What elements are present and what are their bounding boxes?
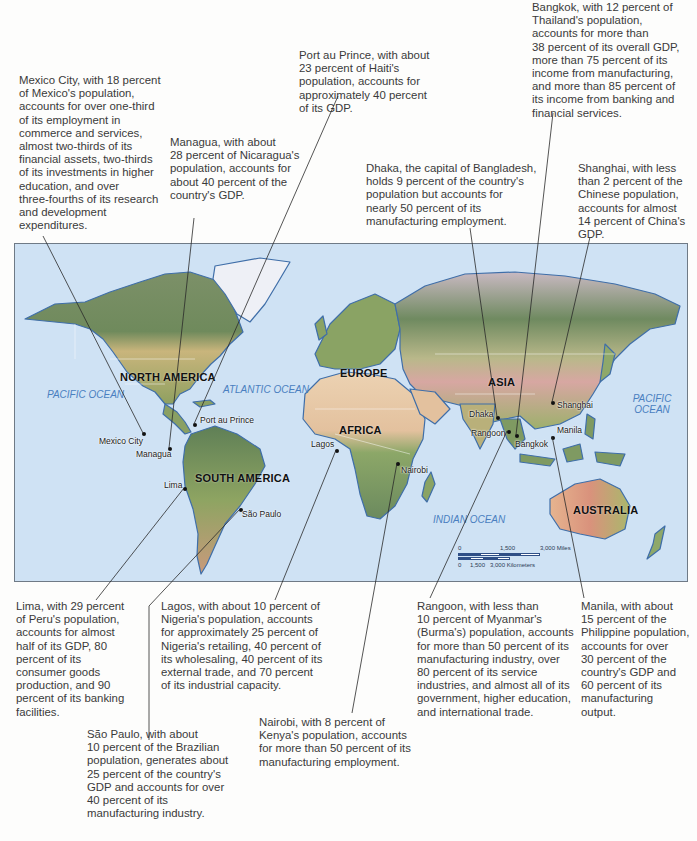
region-label-africa: AFRICA [339, 424, 382, 436]
scale-miles-mid: 1,500 [500, 545, 515, 551]
city-marker-shanghai [551, 401, 555, 405]
city-label-managua: Managua [136, 449, 171, 459]
city-marker-nairobi [396, 462, 400, 466]
scale-miles-zero: 0 [458, 545, 461, 551]
city-marker-port-au-prince [193, 423, 197, 427]
callout-manila: Manila, with about 15 percent of the Phi… [581, 600, 689, 719]
city-label-mexico-city: Mexico City [99, 436, 143, 446]
ocean-label-indian: INDIAN OCEAN [433, 514, 505, 525]
scale-km-zero: 0 [458, 562, 461, 568]
region-label-australia: AUSTRALIA [573, 504, 638, 516]
callout-nairobi: Nairobi, with 8 percent of Kenya's popul… [259, 716, 411, 769]
city-label-rangoon: Rangoon [471, 428, 506, 438]
scale-km-mid: 1,500 [470, 562, 485, 568]
city-label-dhaka: Dhaka [469, 409, 494, 419]
city-label-bangkok: Bangkok [515, 439, 548, 449]
city-marker-dhaka [496, 416, 500, 420]
map-scale-bar: 0 1,500 3,000 Miles 0 1,500 3,000 Kilome… [458, 545, 578, 575]
scale-miles-max: 3,000 Miles [540, 545, 571, 551]
callout-bangkok: Bangkok, with 12 percent of Thailand's p… [532, 1, 679, 120]
callout-sao-paulo: São Paulo, with about 10 percent of the … [87, 728, 228, 820]
city-marker-lima [183, 487, 187, 491]
region-label-north-america: NORTH AMERICA [120, 371, 216, 383]
city-marker-lagos [335, 449, 339, 453]
callout-shanghai: Shanghai, with less than 2 percent of th… [578, 162, 685, 241]
city-label-lima: Lima [164, 480, 182, 490]
city-label-sao-paulo: São Paulo [242, 509, 281, 519]
callout-lima: Lima, with 29 percent of Peru's populati… [16, 600, 124, 719]
callout-rangoon: Rangoon, with less than 10 percent of My… [417, 600, 574, 719]
world-map: NORTH AMERICA SOUTH AMERICA EUROPE AFRIC… [14, 243, 688, 582]
map-landmasses [15, 244, 687, 581]
city-marker-rangoon [507, 430, 511, 434]
ocean-label-pacific-west: PACIFIC OCEAN [47, 389, 124, 400]
city-label-nairobi: Nairobi [401, 465, 428, 475]
callout-mexico-city: Mexico City, with 18 percent of Mexico's… [19, 74, 161, 232]
city-marker-bangkok [515, 434, 519, 438]
city-label-shanghai: Shanghai [557, 400, 593, 410]
callout-dhaka: Dhaka, the capital of Bangladesh, holds … [366, 162, 536, 228]
scale-km-max: 3,000 Kilometers [490, 562, 535, 568]
city-marker-manila [551, 436, 555, 440]
callout-managua: Managua, with about 28 percent of Nicara… [170, 136, 299, 202]
region-label-south-america: SOUTH AMERICA [195, 472, 290, 484]
city-label-lagos: Lagos [311, 439, 334, 449]
city-label-port-au-prince: Port au Prince [200, 415, 254, 425]
city-label-manila: Manila [557, 425, 582, 435]
region-label-europe: EUROPE [340, 367, 388, 379]
ocean-label-pacific-east: PACIFIC OCEAN [617, 393, 687, 415]
ocean-label-atlantic: ATLANTIC OCEAN [223, 384, 309, 395]
callout-lagos: Lagos, with about 10 percent of Nigeria'… [161, 600, 322, 692]
region-label-asia: ASIA [488, 376, 515, 388]
callout-port-au-prince: Port au Prince, with about 23 percent of… [299, 49, 429, 115]
